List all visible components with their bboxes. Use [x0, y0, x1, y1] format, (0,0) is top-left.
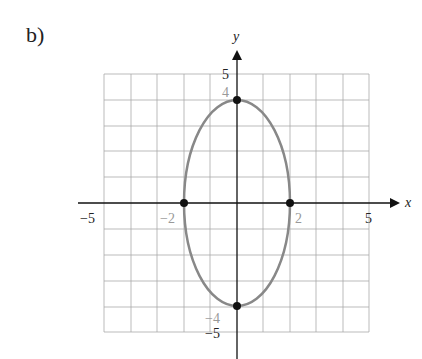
tick-x-5: 5 [365, 212, 372, 226]
tick-x-2: 2 [295, 212, 302, 226]
tick-y-neg5: −5 [205, 327, 220, 341]
ellipse-plot [0, 0, 422, 359]
tick-y-neg4: −4 [205, 312, 220, 326]
x-axis-arrow-icon [390, 198, 400, 208]
x-axis-label: x [405, 196, 411, 210]
tick-y-5: 5 [222, 68, 229, 82]
y-axis-arrow-icon [232, 50, 242, 60]
tick-y-4: 4 [222, 86, 229, 100]
tick-x-neg5: −5 [80, 212, 95, 226]
y-axis-label: y [233, 30, 239, 44]
tick-x-neg2: −2 [160, 212, 175, 226]
